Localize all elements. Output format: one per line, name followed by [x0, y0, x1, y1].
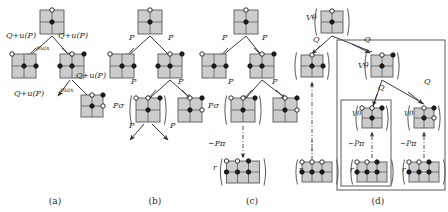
edge-label-d-12: r: [299, 165, 303, 174]
graph-node-child-left-node: [108, 52, 136, 78]
vertex-open: [365, 160, 369, 164]
caption-b: (b): [149, 196, 162, 206]
ellipsis-dot: [311, 141, 313, 143]
edge-label-c-5: ∼Pπ: [208, 139, 226, 148]
vertex-filled: [320, 170, 324, 174]
vertex-open: [380, 53, 384, 57]
vertex-open: [422, 106, 426, 110]
vertex-filled: [224, 170, 228, 174]
paren-left: [220, 159, 222, 186]
vertex-filled: [432, 106, 436, 110]
edge-label-d-6: Vθ: [352, 110, 362, 118]
edge-label-d-3: Vθ: [358, 61, 369, 70]
edge-label-b-1: P: [167, 33, 174, 42]
paren-right: [260, 96, 262, 125]
edge-b-leaf-right: [152, 124, 168, 140]
vertex-filled: [246, 159, 250, 163]
paren-right: [264, 159, 266, 186]
vertex-open: [229, 96, 233, 100]
edge-label-a-5: max: [60, 86, 74, 94]
vertex-open: [200, 52, 204, 56]
edge-label-d-9: ∼Pπ: [400, 139, 417, 148]
vertex-filled: [417, 170, 421, 174]
vertex-open: [310, 160, 314, 164]
vertex-filled: [50, 20, 54, 24]
vertex-filled: [375, 160, 379, 164]
graph-node-expanded-node: [225, 96, 261, 125]
vertex-open: [283, 96, 287, 100]
edge-label-d-2: Q: [364, 35, 371, 44]
edge-label-b-0: P: [128, 33, 135, 42]
vertex-filled: [330, 20, 334, 24]
edge-label-b-2: P: [130, 77, 137, 86]
figure-root: Q+u(P)Q+u(P)maxQ+u(P)Q+u(P)maxPPPPPσPPPP…: [0, 0, 448, 212]
vertex-open: [134, 96, 138, 100]
vertex-filled: [427, 170, 431, 174]
vertex-open: [10, 52, 14, 56]
vertex-filled: [244, 20, 248, 24]
edge-label-c-2: P: [227, 77, 234, 86]
vertex-filled: [148, 20, 152, 24]
caption-d: (d): [372, 196, 385, 206]
vertex-filled: [90, 104, 94, 108]
vertex-open: [148, 8, 152, 12]
vertex-filled: [248, 64, 252, 68]
vertex-filled: [180, 52, 184, 56]
graph-node-right-branch-node: [365, 53, 399, 80]
graph-node-expanded-node: [130, 96, 166, 125]
edge-label-c-4: Pσ: [207, 101, 219, 110]
graph-node-leaf-right-node: [403, 160, 445, 185]
figure-canvas: Q+u(P)Q+u(P)maxQ+u(P)Q+u(P)maxPPPPPσPPPP…: [0, 0, 448, 212]
edge-label-b-4: Pσ: [112, 101, 124, 110]
vertex-filled: [283, 108, 287, 112]
vertex-filled: [365, 170, 369, 174]
vertex-filled: [391, 53, 395, 57]
paren-right: [348, 9, 350, 36]
graph-node-child-left-node: [10, 52, 38, 78]
vertex-open: [50, 8, 54, 12]
vertex-open: [330, 9, 334, 13]
vertex-filled: [212, 64, 216, 68]
vertex-open: [244, 8, 248, 12]
vertex-filled: [260, 64, 264, 68]
edge-label-a-3: Q+u(P): [76, 71, 106, 80]
paren-right: [165, 96, 167, 125]
vertex-filled: [380, 64, 384, 68]
edge-label-c-3: P: [271, 77, 278, 86]
vertex-open: [295, 108, 299, 112]
vertex-open: [108, 52, 112, 56]
edge-label-a-1: Q+u(P): [58, 31, 88, 40]
vertex-open: [310, 53, 314, 57]
vertex-open: [320, 160, 324, 164]
vertex-open: [188, 96, 192, 100]
graph-node-child-left-node: [200, 52, 228, 78]
vertex-filled: [22, 64, 26, 68]
vertex-open: [241, 96, 245, 100]
graph-node-root-node: [234, 8, 258, 34]
edge-label-c-0: P: [221, 33, 228, 42]
graph-node-terminal-node: [220, 159, 265, 186]
edge-label-c-1: P: [261, 33, 268, 42]
vertex-filled: [82, 52, 86, 56]
paren-right: [387, 106, 389, 131]
vertex-filled: [132, 64, 136, 68]
vertex-filled: [224, 64, 228, 68]
vertex-filled: [158, 96, 162, 100]
edge-label-c-6: r: [213, 163, 218, 172]
paren-left: [295, 53, 297, 80]
vertex-filled: [58, 64, 62, 68]
vertex-open: [300, 160, 304, 164]
edge-label-d-11: r: [402, 165, 406, 174]
vertex-filled: [310, 170, 314, 174]
vertex-open: [146, 96, 150, 100]
vertex-filled: [168, 64, 172, 68]
vertex-filled: [355, 170, 359, 174]
vertex-filled: [375, 170, 379, 174]
vertex-filled: [34, 64, 38, 68]
caption-a: (a): [49, 196, 61, 206]
vertex-open: [260, 52, 264, 56]
edge-label-b-6: P: [169, 121, 176, 130]
vertex-open: [355, 160, 359, 164]
edge-label-d-10: r: [350, 165, 354, 174]
paren-left: [225, 96, 227, 125]
